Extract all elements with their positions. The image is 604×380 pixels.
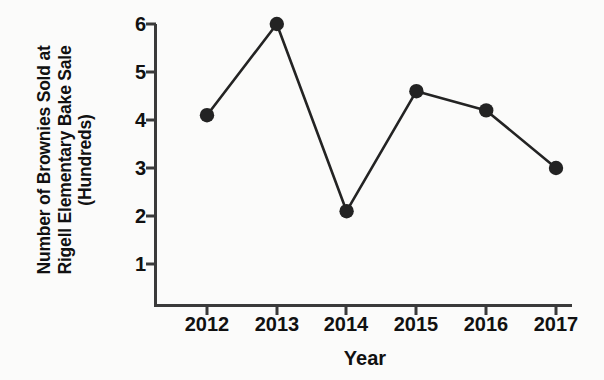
x-tick-label: 2016 — [464, 314, 509, 334]
x-tick-label: 2014 — [324, 314, 369, 334]
x-tick-label: 2015 — [394, 314, 439, 334]
x-tick-label: 2012 — [185, 314, 230, 334]
data-point-marker — [339, 204, 353, 218]
line-chart: Number of Brownies Sold at Rigell Elemen… — [0, 0, 604, 380]
x-tick-label: 2017 — [534, 314, 579, 334]
data-marker-group — [200, 17, 563, 219]
x-axis-title: Year — [155, 348, 575, 368]
x-axis-tick-label-group: 2012 2013 2014 2015 2016 2017 — [0, 314, 604, 344]
data-point-marker — [200, 108, 214, 122]
data-point-marker — [549, 161, 563, 175]
data-point-marker — [409, 84, 423, 98]
x-tick-label: 2013 — [255, 314, 300, 334]
data-point-marker — [270, 17, 284, 31]
data-point-marker — [479, 103, 493, 117]
data-line-series — [207, 24, 556, 211]
